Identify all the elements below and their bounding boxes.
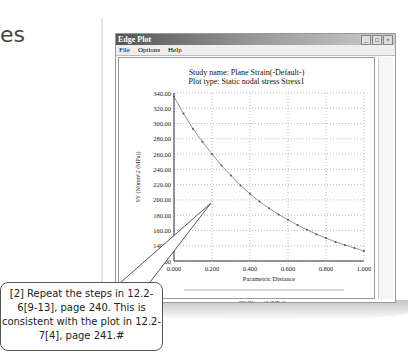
scrollbar[interactable] bbox=[378, 57, 393, 299]
callout-note: [2] Repeat the steps in 12.2-6[9-13], pa… bbox=[0, 282, 163, 351]
svg-text:Parametric Distance: Parametric Distance bbox=[243, 275, 296, 282]
maximize-button[interactable]: □ bbox=[372, 35, 382, 45]
page-heading-fragment: es bbox=[0, 22, 25, 47]
plot-canvas: Study name: Plane Strain(-Default-) Plot… bbox=[118, 57, 375, 299]
svg-text:180.00: 180.00 bbox=[153, 212, 171, 219]
svg-text:140.00: 140.00 bbox=[153, 242, 171, 249]
menu-file[interactable]: File bbox=[119, 46, 130, 54]
svg-text:SY (N/mm^2 (MPa)): SY (N/mm^2 (MPa)) bbox=[135, 152, 142, 203]
minimize-button[interactable]: _ bbox=[361, 35, 371, 45]
svg-text:0.600: 0.600 bbox=[281, 265, 296, 272]
svg-text:320.00: 320.00 bbox=[153, 105, 171, 112]
svg-text:260.00: 260.00 bbox=[153, 151, 171, 158]
close-button[interactable]: × bbox=[383, 35, 393, 45]
svg-text:340.00: 340.00 bbox=[153, 90, 171, 97]
edge-plot-window: Edge Plot _ □ × File Options Help Study … bbox=[115, 33, 396, 303]
window-title: Edge Plot bbox=[118, 35, 151, 44]
svg-text:240.00: 240.00 bbox=[153, 166, 171, 173]
menu-bar: File Options Help bbox=[116, 45, 395, 56]
title-bar[interactable]: Edge Plot _ □ × bbox=[116, 34, 395, 45]
menu-options[interactable]: Options bbox=[138, 46, 160, 54]
svg-text:0.000: 0.000 bbox=[167, 265, 182, 272]
svg-text:220.00: 220.00 bbox=[153, 181, 171, 188]
svg-text:120.00: 120.00 bbox=[153, 258, 171, 265]
svg-text:0.200: 0.200 bbox=[205, 265, 220, 272]
svg-text:160.00: 160.00 bbox=[153, 227, 171, 234]
svg-text:200.00: 200.00 bbox=[153, 196, 171, 203]
svg-text:0.800: 0.800 bbox=[319, 265, 334, 272]
line-chart: 120.00140.00160.00180.00200.00220.00240.… bbox=[119, 58, 376, 302]
page-divider bbox=[101, 18, 103, 288]
svg-text:SY (N/mm^2 (MPa)): SY (N/mm^2 (MPa)) bbox=[239, 300, 286, 302]
svg-text:0.400: 0.400 bbox=[243, 265, 258, 272]
svg-text:300.00: 300.00 bbox=[153, 120, 171, 127]
svg-text:280.00: 280.00 bbox=[153, 135, 171, 142]
svg-text:1.000: 1.000 bbox=[357, 265, 372, 272]
menu-help[interactable]: Help bbox=[168, 46, 182, 54]
